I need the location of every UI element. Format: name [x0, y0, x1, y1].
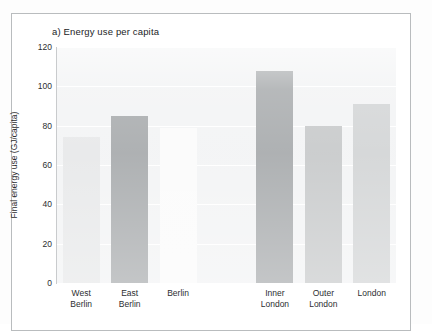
- bar: [111, 116, 148, 283]
- y-tick-label: 120: [38, 42, 52, 52]
- bar: [160, 128, 197, 283]
- chart-title: a) Energy use per capita: [52, 26, 159, 37]
- gridline: [57, 204, 396, 205]
- bar: [305, 126, 342, 283]
- y-axis-line: [56, 47, 57, 284]
- y-tick-label: 40: [43, 199, 52, 209]
- x-tick-label: Berlin: [148, 288, 208, 299]
- bar: [256, 71, 293, 283]
- gridline: [57, 126, 396, 127]
- y-axis-title: Final energy use (GJ/capita): [9, 85, 19, 245]
- y-tick-label: 100: [38, 81, 52, 91]
- y-tick-label: 60: [43, 160, 52, 170]
- y-tick-label: 0: [47, 278, 52, 288]
- y-tick-label: 20: [43, 239, 52, 249]
- x-tick-label: London: [342, 288, 402, 299]
- gridline: [57, 86, 396, 87]
- gridline: [57, 244, 396, 245]
- plot-area: [57, 47, 396, 283]
- y-tick-label: 80: [43, 121, 52, 131]
- gridline: [57, 165, 396, 166]
- bar: [353, 104, 390, 283]
- gridline: [57, 47, 396, 48]
- y-axis-tick-labels: 020406080100120: [22, 0, 52, 324]
- bar: [63, 137, 100, 283]
